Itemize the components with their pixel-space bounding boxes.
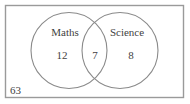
venn-diagram-container: Maths Science 12 7 8 63 [0, 0, 190, 104]
count-science-only: 8 [128, 49, 134, 61]
set-label-science: Science [110, 26, 144, 38]
venn-diagram-canvas: Maths Science 12 7 8 63 [0, 0, 190, 104]
set-label-maths: Maths [51, 26, 79, 38]
count-maths-only: 12 [57, 49, 68, 61]
count-intersection: 7 [92, 49, 98, 61]
count-universal-set: 63 [10, 84, 22, 96]
